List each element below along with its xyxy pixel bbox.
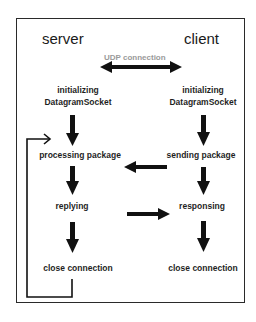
server-arrow-down-2-icon xyxy=(66,166,79,195)
reply-right-arrow-icon xyxy=(127,208,170,220)
arrows-layer xyxy=(0,0,256,322)
client-arrow-down-3-icon xyxy=(197,221,210,252)
loop-back-arrow-icon xyxy=(27,134,72,297)
server-arrow-down-3-icon xyxy=(66,222,79,253)
send-left-arrow-icon xyxy=(124,161,167,173)
client-arrow-down-1-icon xyxy=(197,115,210,146)
server-arrow-down-1-icon xyxy=(66,115,79,146)
udp-double-arrow-icon xyxy=(100,61,182,73)
client-arrow-down-2-icon xyxy=(197,167,210,195)
